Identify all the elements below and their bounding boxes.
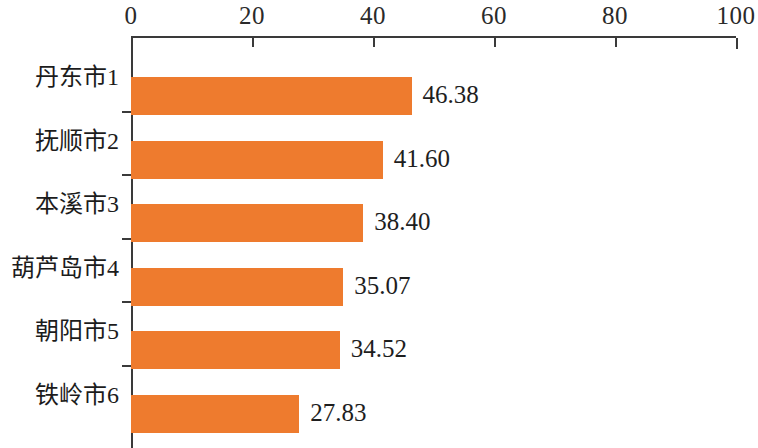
category-label: 铁岭市6 [35,381,119,409]
bar [131,395,299,433]
category-label: 朝阳市5 [35,317,119,345]
bar-value-label: 46.38 [412,76,479,114]
bar-row: 35.07 [131,249,736,312]
bar-row: 34.52 [131,312,736,375]
bar-value-label: 41.60 [383,140,450,178]
category-label: 抚顺市2 [35,127,119,155]
x-axis-tick-label: 60 [481,2,507,30]
category-label: 葫芦岛市4 [11,254,119,282]
x-axis-tick-label: 20 [239,2,265,30]
bar-value-label: 27.83 [299,394,366,432]
category-label: 丹东市1 [35,63,119,91]
bar-row: 41.60 [131,122,736,185]
bar [131,268,343,306]
category-label: 本溪市3 [35,190,119,218]
x-axis-tick-label: 80 [602,2,628,30]
plot-area: 46.3841.6038.4035.0734.5227.83 [131,38,736,448]
bar [131,331,340,369]
x-axis-endcap [736,38,738,49]
bar-row: 38.40 [131,185,736,248]
bar-row: 27.83 [131,376,736,439]
bar [131,141,383,179]
bar-row: 46.38 [131,58,736,121]
x-axis-tick-label: 100 [717,2,756,30]
bar-value-label: 38.40 [363,203,430,241]
x-axis-tick-label: 0 [125,2,138,30]
horizontal-bar-chart: 020406080100 丹东市1抚顺市2本溪市3葫芦岛市4朝阳市5铁岭市6 4… [0,0,758,448]
bar-value-label: 35.07 [343,267,410,305]
bar-value-label: 34.52 [340,330,407,368]
bar [131,204,363,242]
x-axis-tick-label: 40 [360,2,386,30]
bar [131,77,412,115]
